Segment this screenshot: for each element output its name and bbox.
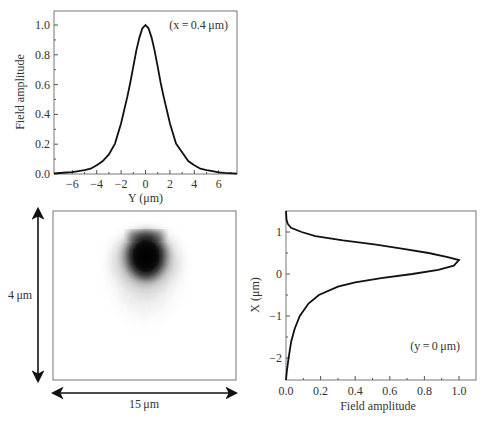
mode-intensity-spot [102,224,190,348]
right-plot: 1 0 −1 −2 0.0 0.2 0.4 0.6 0.8 1.0 Field … [248,211,476,413]
y-tick-label: 0.8 [35,48,50,62]
top-plot-x-axis-label: Y (μm) [128,191,163,205]
x-tick-label: 6 [216,177,222,191]
top-plot-curve [54,25,237,174]
mode-image-panel: 4 μm 15 μm [8,210,236,411]
figure: 0.0 0.2 0.4 0.6 0.8 1.0 −6 −4 −2 0 2 4 6… [0,0,490,426]
right-plot-curve [286,211,459,380]
top-plot-frame [54,11,237,174]
top-plot-y-tick-labels: 0.0 0.2 0.4 0.6 0.8 1.0 [35,18,50,181]
y-tick-label: −2 [269,351,282,365]
x-tick-label: −4 [90,177,103,191]
y-tick-label: 1 [276,225,282,239]
top-plot-y-axis-label: Field amplitude [13,54,27,130]
x-tick-label: 0.0 [279,384,294,398]
right-plot-x-tick-labels: 0.0 0.2 0.4 0.6 0.8 1.0 [279,384,467,398]
height-label: 4 μm [8,288,33,302]
right-plot-y-ticks [286,232,290,358]
x-tick-label: −6 [66,177,79,191]
y-tick-label: 0.4 [35,107,50,121]
x-tick-label: 0.2 [313,384,328,398]
top-plot-y-ticks [54,25,58,174]
right-plot-y-axis-label: X (μm) [248,277,262,312]
y-tick-label: 1.0 [35,18,50,32]
x-tick-label: 0 [143,177,149,191]
x-tick-label: −2 [115,177,128,191]
y-tick-label: 0.2 [35,137,50,151]
y-tick-label: 0.0 [35,167,50,181]
x-tick-label: 0.4 [348,384,363,398]
y-tick-label: 0.6 [35,78,50,92]
right-plot-x-axis-label: Field amplitude [340,399,416,413]
right-plot-x-ticks [303,376,459,380]
x-tick-label: 0.6 [382,384,397,398]
top-plot-annotation: (x = 0.4 μm) [169,18,228,32]
y-tick-label: 0 [276,267,282,281]
x-tick-label: 2 [167,177,173,191]
top-plot-x-tick-labels: −6 −4 −2 0 2 4 6 [66,177,222,191]
right-plot-annotation: (y = 0 μm) [410,339,460,353]
y-tick-label: −1 [269,309,282,323]
x-tick-label: 0.8 [417,384,432,398]
x-tick-label: 1.0 [452,384,467,398]
x-tick-label: 4 [191,177,197,191]
top-plot: 0.0 0.2 0.4 0.6 0.8 1.0 −6 −4 −2 0 2 4 6… [13,11,237,205]
width-label: 15 μm [129,397,160,411]
right-plot-y-tick-labels: 1 0 −1 −2 [269,225,282,365]
